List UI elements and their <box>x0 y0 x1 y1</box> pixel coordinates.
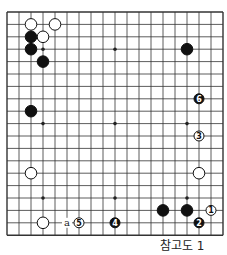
black-stone <box>25 43 37 55</box>
diagram-caption: 참고도 1 <box>160 236 204 253</box>
black-stone <box>37 56 49 68</box>
star-point <box>113 196 117 200</box>
move-number: 2 <box>196 219 202 228</box>
star-point <box>113 47 117 51</box>
white-stone <box>37 217 49 229</box>
move-number: 5 <box>76 219 82 228</box>
point-label: a <box>64 217 70 228</box>
star-point <box>113 122 117 126</box>
star-point <box>185 196 189 200</box>
black-stone <box>25 31 37 43</box>
move-number: 4 <box>112 219 118 228</box>
black-stone <box>157 205 169 217</box>
black-stone <box>181 43 193 55</box>
move-number: 1 <box>208 206 214 215</box>
white-stone <box>193 167 205 179</box>
white-stone <box>25 167 37 179</box>
star-point <box>41 122 45 126</box>
move-number: 3 <box>196 132 202 141</box>
white-stone <box>37 31 49 43</box>
star-point <box>185 122 189 126</box>
white-stone <box>25 19 37 31</box>
move-number: 6 <box>196 95 202 104</box>
go-board: a631254 <box>0 0 227 240</box>
white-stone <box>49 19 61 31</box>
black-stone <box>25 105 37 117</box>
star-point <box>41 196 45 200</box>
star-point <box>41 47 45 51</box>
black-stone <box>181 205 193 217</box>
